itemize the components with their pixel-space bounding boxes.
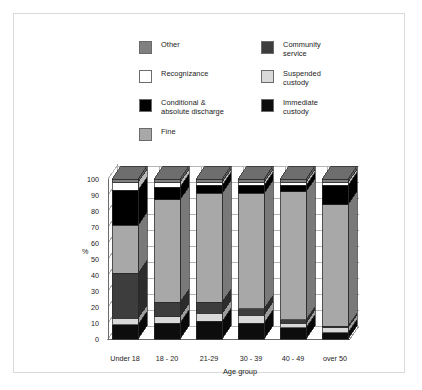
legend-column-right: Community service Suspended custody Imme…: [261, 40, 383, 127]
x-tick-label: 40 - 49: [271, 354, 315, 363]
legend-swatch-suspended-custody: [261, 70, 274, 83]
y-tick-label: 40: [79, 272, 99, 279]
legend-swatch-community-service: [261, 41, 274, 54]
bar-segment: [238, 323, 264, 339]
legend-label-suspended-custody: Suspended custody: [283, 69, 321, 87]
bar-segment: [322, 333, 348, 339]
bar-segment: [196, 321, 222, 339]
bar-segment: [238, 309, 264, 315]
chart-3d-box: [104, 164, 366, 352]
legend-item-suspended-custody: Suspended custody: [261, 69, 383, 98]
y-tick-label: 0: [79, 336, 99, 343]
x-tick-label: 21-29: [187, 354, 231, 363]
bar-segment: [280, 179, 306, 182]
bar-segment: [112, 182, 138, 190]
bar-segment: [154, 187, 180, 200]
legend-item-fine: Fine: [139, 127, 261, 156]
y-tick-label: 30: [79, 288, 99, 295]
legend-swatch-other: [139, 41, 152, 54]
x-tick-label: 18 - 20: [145, 354, 189, 363]
bar-segment: [280, 328, 306, 339]
legend-item-immediate-custody: Immediate custody: [261, 98, 383, 127]
chart-canvas: Other Recognizance Conditional & absolut…: [0, 0, 422, 390]
bar-segment: [196, 179, 222, 182]
bar-segment: [322, 182, 348, 185]
bar-segment: [154, 302, 180, 316]
chart-gridlines: [104, 164, 366, 354]
bar-segment: [112, 225, 138, 273]
bar-segment: [154, 317, 180, 323]
legend-label-other: Other: [161, 40, 180, 49]
legend-label-recognizance: Recognizance: [161, 69, 208, 78]
bar-segment-side: [180, 187, 189, 302]
y-tick-label: 60: [79, 240, 99, 247]
bar-segment: [196, 193, 222, 302]
bar-segment: [280, 185, 306, 191]
bar-segment-side: [306, 179, 315, 320]
legend-swatch-conditional-absolute-discharge: [139, 99, 152, 112]
bar-segment: [280, 192, 306, 320]
legend-item-conditional-absolute-discharge: Conditional & absolute discharge: [139, 98, 261, 127]
legend-swatch-recognizance: [139, 70, 152, 83]
bar-segment: [280, 182, 306, 185]
x-axis-tick-labels: Under 1818 - 2021-2930 - 3940 - 49over 5…: [104, 354, 379, 366]
chart-legend: Other Recognizance Conditional & absolut…: [139, 40, 389, 160]
y-tick-label: 80: [79, 208, 99, 215]
x-tick-label: 30 - 39: [229, 354, 273, 363]
legend-label-immediate-custody: Immediate custody: [283, 98, 318, 116]
y-axis-tick-labels: 0102030405060708090100: [77, 164, 99, 339]
y-tick-label: 50: [79, 256, 99, 263]
chart-frame: Other Recognizance Conditional & absolut…: [13, 13, 405, 373]
y-tick-label: 100: [79, 176, 99, 183]
bar-segment: [280, 320, 306, 323]
bar-segment: [154, 323, 180, 339]
legend-label-community-service: Community service: [283, 40, 321, 58]
bar-segment-side: [264, 180, 273, 308]
x-tick-label: over 50: [313, 354, 357, 363]
bar-segment: [154, 200, 180, 302]
bar-segment: [280, 323, 306, 328]
bar-segment: [322, 205, 348, 327]
bar-segment: [196, 302, 222, 313]
legend-item-community-service: Community service: [261, 40, 383, 69]
bar-segment-side: [348, 192, 357, 327]
bar-segment: [322, 328, 348, 333]
legend-swatch-fine: [139, 128, 152, 141]
bar-segment: [112, 273, 138, 318]
bar-segment-side: [222, 180, 231, 302]
bar-segment: [112, 190, 138, 225]
bar-segment: [322, 185, 348, 204]
bar-segment: [238, 179, 264, 182]
bar-segment: [322, 179, 348, 182]
x-axis-title: Age group: [104, 367, 376, 376]
chart-plot-area: % 0102030405060708090100 Under 1818 - 20…: [77, 164, 377, 359]
bar-segment: [196, 313, 222, 321]
bar-segment: [238, 193, 264, 308]
bar-segment: [196, 182, 222, 185]
legend-swatch-immediate-custody: [261, 99, 274, 112]
bar-segment: [238, 185, 264, 193]
bar-segment: [112, 318, 138, 324]
bar-segment: [112, 179, 138, 182]
y-tick-label: 20: [79, 304, 99, 311]
bar-segment: [154, 179, 180, 182]
y-tick-label: 70: [79, 224, 99, 231]
bar-segment: [154, 182, 180, 187]
y-tick-label: 90: [79, 192, 99, 199]
bar-segment: [238, 182, 264, 185]
legend-item-recognizance: Recognizance: [139, 69, 261, 98]
legend-label-fine: Fine: [161, 127, 176, 136]
x-tick-label: Under 18: [103, 354, 147, 363]
bar-segment: [112, 325, 138, 339]
bar-segment: [196, 185, 222, 193]
y-tick-label: 10: [79, 320, 99, 327]
legend-column-left: Other Recognizance Conditional & absolut…: [139, 40, 261, 156]
legend-label-conditional-absolute-discharge: Conditional & absolute discharge: [161, 98, 224, 116]
legend-item-other: Other: [139, 40, 261, 69]
bar-segment: [238, 315, 264, 323]
